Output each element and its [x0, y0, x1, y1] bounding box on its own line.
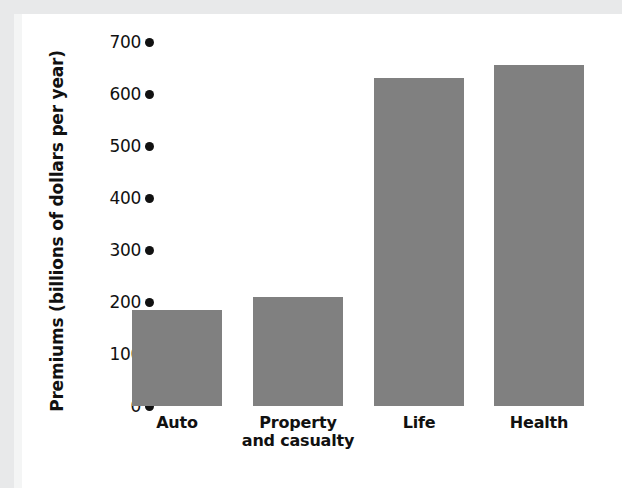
y-tick-label: 700 — [109, 34, 141, 51]
y-tick-700: 700 — [62, 34, 154, 50]
x-axis-label-line: Health — [468, 414, 610, 432]
filled-circle-icon — [145, 38, 154, 47]
y-tick-label: 500 — [109, 138, 141, 155]
filled-circle-icon — [145, 90, 154, 99]
y-tick-600: 600 — [62, 86, 154, 102]
y-tick-label: 200 — [109, 294, 141, 311]
filled-circle-icon — [145, 142, 154, 151]
y-tick-200: 200 — [62, 294, 154, 310]
y-tick-label: 300 — [109, 242, 141, 259]
x-axis-label-health: Health — [468, 414, 610, 432]
bar-health — [494, 65, 584, 406]
y-tick-300: 300 — [62, 242, 154, 258]
bar-life — [374, 78, 464, 406]
y-tick-400: 400 — [62, 190, 154, 206]
scan-edge-left-soft — [14, 14, 22, 488]
y-tick-label: 600 — [109, 86, 141, 103]
filled-circle-icon — [145, 246, 154, 255]
y-tick-500: 500 — [62, 138, 154, 154]
scan-edge-left — [0, 0, 14, 488]
chart-page: Premiums (billions of dollars per year) … — [0, 0, 622, 488]
x-axis-label-line: and casualty — [227, 432, 369, 450]
bar-auto — [132, 310, 222, 406]
plot-area: Premiums (billions of dollars per year) … — [22, 14, 622, 488]
scan-edge-top — [0, 0, 622, 14]
bar-property-and-casualty — [253, 297, 343, 406]
filled-circle-icon — [145, 194, 154, 203]
y-tick-label: 400 — [109, 190, 141, 207]
filled-circle-icon — [145, 298, 154, 307]
